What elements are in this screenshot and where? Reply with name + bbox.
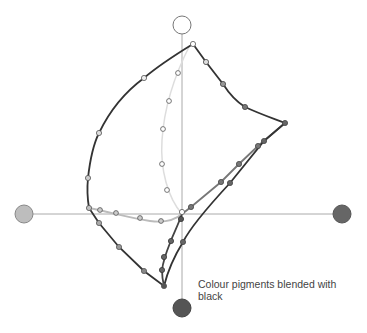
outer-boundary-curve bbox=[87, 44, 285, 286]
outer-right-markers bbox=[180, 59, 287, 244]
outer-left-markers bbox=[85, 41, 195, 288]
anchor-right-dark-gray bbox=[333, 205, 351, 223]
anchor-top-white bbox=[173, 16, 191, 34]
inner-light-markers bbox=[160, 71, 185, 215]
bottom-left-curve bbox=[89, 208, 182, 222]
diagram-caption: Colour pigments blended with black bbox=[198, 278, 358, 302]
anchor-left-light-gray bbox=[15, 205, 33, 223]
anchor-bottom-black bbox=[173, 299, 191, 317]
